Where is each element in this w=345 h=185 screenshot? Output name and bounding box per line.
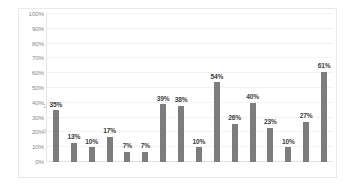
bar-value-label: 40%	[246, 94, 259, 101]
y-axis-tick-label: 0%	[35, 159, 44, 165]
bar-value-label: 17%	[103, 128, 116, 135]
bar-slot: 54%	[208, 14, 226, 162]
bar-slot: 27%	[297, 14, 315, 162]
stray-glyph-one: 1	[43, 103, 46, 109]
bar-slot: 10%	[279, 14, 297, 162]
bar[interactable]	[89, 147, 95, 162]
bar-value-label: 7%	[123, 143, 132, 150]
plot-area: 35%13%10%17%7%7%39%38%10%54%26%40%23%10%…	[47, 14, 333, 162]
bar-value-label: 7%	[141, 143, 150, 150]
bar[interactable]	[160, 104, 166, 162]
bar-value-label: 26%	[228, 115, 241, 122]
y-axis-tick-label: 70%	[32, 55, 44, 61]
y-axis-tick-label: 80%	[32, 40, 44, 46]
bar-value-label: 10%	[85, 139, 98, 146]
bar[interactable]	[196, 147, 202, 162]
bar[interactable]	[214, 82, 220, 162]
bar-value-label: 38%	[175, 97, 188, 104]
chart-figure: 0%10%20%30%40%50%60%70%80%90%100% 35%13%…	[0, 0, 345, 185]
bar-slot: 7%	[136, 14, 154, 162]
bar-slot: 39%	[154, 14, 172, 162]
bar-slot: 40%	[244, 14, 262, 162]
bar-slot: 10%	[190, 14, 208, 162]
bar[interactable]	[124, 152, 130, 162]
bar[interactable]	[267, 128, 273, 162]
bar-slot: 35%	[47, 14, 65, 162]
bar-series: 35%13%10%17%7%7%39%38%10%54%26%40%23%10%…	[47, 14, 333, 162]
bar-slot: 13%	[65, 14, 83, 162]
y-axis-tick-label: 100%	[29, 11, 44, 17]
bar-value-label: 10%	[282, 139, 295, 146]
bar[interactable]	[321, 72, 327, 162]
y-axis-tick-label: 10%	[32, 144, 44, 150]
bar-slot: 17%	[101, 14, 119, 162]
bar-value-label: 39%	[157, 96, 170, 103]
y-axis-tick-label: 60%	[32, 70, 44, 76]
bar-slot: 38%	[172, 14, 190, 162]
bar-value-label: 23%	[264, 119, 277, 126]
bar-value-label: 54%	[210, 74, 223, 81]
y-axis-tick-label: 30%	[32, 114, 44, 120]
y-axis-tick-labels: 0%10%20%30%40%50%60%70%80%90%100%	[18, 14, 46, 162]
bar-value-label: 61%	[318, 63, 331, 70]
bar-value-label: 10%	[193, 139, 206, 146]
bar-slot: 26%	[226, 14, 244, 162]
bar-value-label: 27%	[300, 113, 313, 120]
y-axis-tick-label: 90%	[32, 26, 44, 32]
bar-value-label: 35%	[50, 102, 63, 109]
y-axis-tick-label: 50%	[32, 85, 44, 91]
bar-slot: 10%	[83, 14, 101, 162]
bar[interactable]	[250, 103, 256, 162]
bar[interactable]	[142, 152, 148, 162]
bar-value-label: 13%	[67, 134, 80, 141]
bar[interactable]	[71, 143, 77, 162]
bar-slot: 61%	[315, 14, 333, 162]
bar[interactable]	[303, 122, 309, 162]
bar[interactable]	[232, 124, 238, 162]
bar[interactable]	[285, 147, 291, 162]
bar-slot: 7%	[119, 14, 137, 162]
stray-glyph-six: 6	[43, 128, 46, 134]
bar-slot: 23%	[262, 14, 280, 162]
bar[interactable]	[178, 106, 184, 162]
bar[interactable]	[53, 110, 59, 162]
bar[interactable]	[107, 137, 113, 162]
